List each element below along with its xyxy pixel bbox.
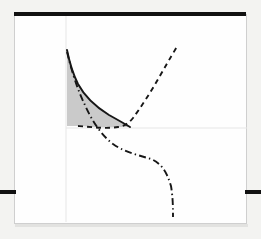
figure-plot-area [14,16,247,222]
page-sheet-shadow [15,224,248,227]
scanned-page-root [0,0,261,239]
dashdot-curve [67,52,173,217]
shaded-coexistence-region [67,50,130,127]
scan-edge-bar-right [245,190,261,194]
